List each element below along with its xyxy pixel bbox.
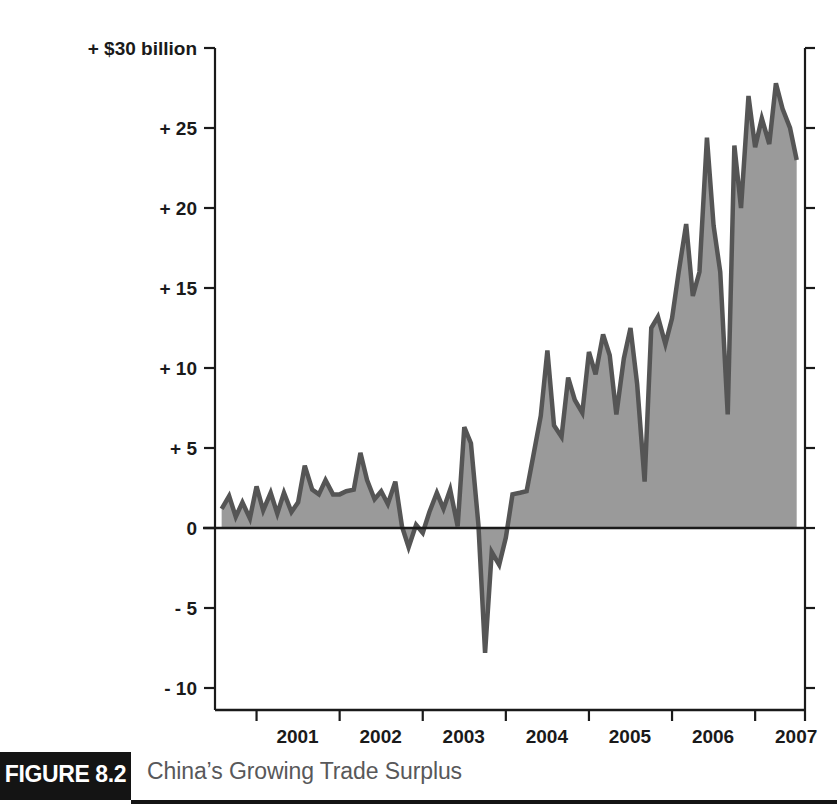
chart-area: + $30 billion+ 25+ 20+ 15+ 10+ 50- 5- 10… xyxy=(0,0,837,750)
figure-caption-bar: FIGURE 8.2 China’s Growing Trade Surplus xyxy=(0,752,837,812)
y-axis-tick-label: + 10 xyxy=(159,358,197,379)
caption-rule-left xyxy=(0,796,131,800)
x-axis-tick-label: 2004 xyxy=(526,726,569,747)
x-axis-tick-label: 2001 xyxy=(276,726,319,747)
x-axis-tick-label: 2006 xyxy=(692,726,734,747)
figure-number-badge: FIGURE 8.2 xyxy=(0,752,131,796)
y-axis-tick-label: - 5 xyxy=(175,598,198,619)
y-axis-tick-label: + $30 billion xyxy=(88,38,197,59)
figure-number-label: FIGURE 8.2 xyxy=(5,761,126,788)
y-axis-tick-label: + 5 xyxy=(170,438,197,459)
y-axis-tick-label: - 10 xyxy=(164,678,197,699)
x-axis-tick-label: 2007 xyxy=(775,726,817,747)
x-ticks-group: 2001200220032004200520062007 xyxy=(257,710,818,747)
y-axis-tick-label: + 25 xyxy=(159,118,197,139)
x-axis-tick-label: 2003 xyxy=(443,726,485,747)
x-axis-tick-label: 2005 xyxy=(609,726,652,747)
y-axis-tick-label: + 20 xyxy=(159,198,197,219)
figure-caption-title: China’s Growing Trade Surplus xyxy=(147,758,462,785)
x-axis-tick-label: 2002 xyxy=(360,726,402,747)
plot-group xyxy=(222,83,797,653)
trade-surplus-area-chart: + $30 billion+ 25+ 20+ 15+ 10+ 50- 5- 10… xyxy=(0,0,837,750)
y-axis-tick-label: + 15 xyxy=(159,278,197,299)
y-axis-tick-label: 0 xyxy=(186,518,197,539)
figure-container: + $30 billion+ 25+ 20+ 15+ 10+ 50- 5- 10… xyxy=(0,0,837,812)
caption-rule xyxy=(131,800,837,804)
